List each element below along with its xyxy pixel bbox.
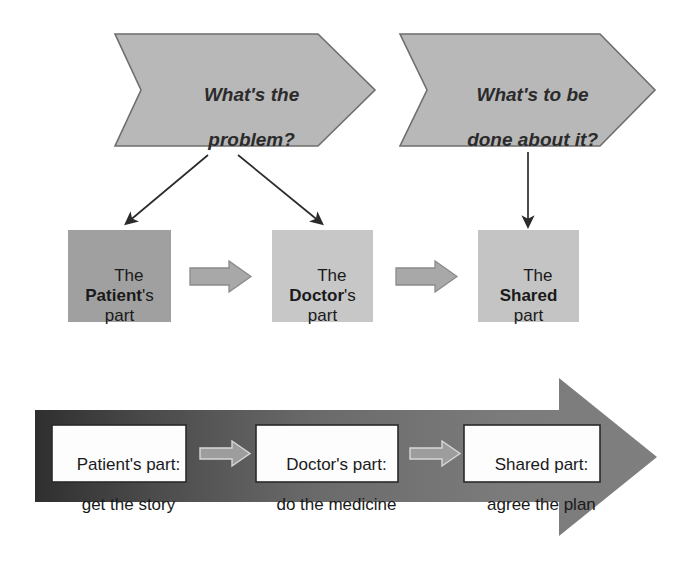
diagram-canvas: What's the problem? What's to be done ab… <box>0 0 694 569</box>
step-box-doctor <box>256 425 398 482</box>
connector-q1-to-doctor <box>238 155 320 222</box>
chevron-question-2 <box>400 34 655 146</box>
diagram-shapes <box>0 0 694 569</box>
chevron-question-1 <box>115 34 375 146</box>
step-box-patient <box>52 425 186 482</box>
role-box-patient <box>68 230 171 322</box>
block-arrow-patient-to-doctor <box>190 261 251 292</box>
role-box-doctor <box>272 230 373 322</box>
role-box-shared <box>478 230 579 322</box>
connector-q1-to-patient <box>128 155 208 222</box>
step-box-shared <box>464 425 600 482</box>
block-arrow-doctor-to-shared <box>396 261 457 292</box>
